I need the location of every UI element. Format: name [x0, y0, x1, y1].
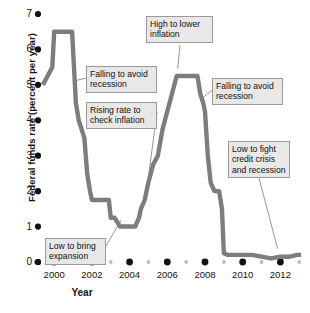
annotation-line: recession [216, 91, 279, 101]
annotation-line: Rising rate to [90, 105, 153, 115]
x-axis-title: Year [47, 287, 117, 298]
annotation-line: and recession [232, 165, 286, 175]
annotation-low-to-fight-credit-crisis: Low to fight credit crisis and recession [228, 141, 290, 178]
x-tick-label: 2002 [75, 269, 109, 280]
x-tick-label: 2000 [37, 269, 71, 280]
annotation-low-to-bring-expansion: Low to bring expansion [45, 238, 106, 265]
annotation-line: inflation [150, 29, 209, 39]
annotation-rising-rate-to-check-inflation: Rising rate to check inflation [86, 102, 157, 129]
x-tick-label: 2010 [226, 269, 260, 280]
y-tick-label: 2 [18, 185, 32, 196]
y-tick-label: 1 [18, 221, 32, 232]
y-tick-label: 7 [18, 8, 32, 19]
annotation-line: recession [90, 79, 153, 89]
y-tick-label: 6 [18, 43, 32, 54]
annotation-high-to-lower-inflation: High to lower inflation [146, 16, 213, 43]
annotation-line: High to lower [150, 19, 209, 29]
annotation-line: expansion [49, 251, 102, 261]
x-tick-label: 2012 [263, 269, 297, 280]
annotation-line: Low to bring [49, 241, 102, 251]
annotation-line: check inflation [90, 115, 153, 125]
annotation-line: Falling to avoid [216, 81, 279, 91]
annotation-falling-to-avoid-recession-2: Falling to avoid recession [212, 78, 283, 105]
y-tick-label: 0 [18, 256, 32, 267]
y-tick-label: 3 [18, 150, 32, 161]
x-tick-label: 2006 [150, 269, 184, 280]
y-tick-label: 4 [18, 114, 32, 125]
x-tick-label: 2004 [113, 269, 147, 280]
annotation-falling-to-avoid-recession-1: Falling to avoid recession [86, 66, 157, 93]
x-tick-label: 2008 [188, 269, 222, 280]
annotation-line: Falling to avoid [90, 69, 153, 79]
annotation-line: credit crisis [232, 154, 286, 164]
federal-funds-rate-chart: Federal funds rate (percent per year) Ye… [0, 0, 310, 313]
y-tick-label: 5 [18, 79, 32, 90]
annotation-line: Low to fight [232, 144, 286, 154]
